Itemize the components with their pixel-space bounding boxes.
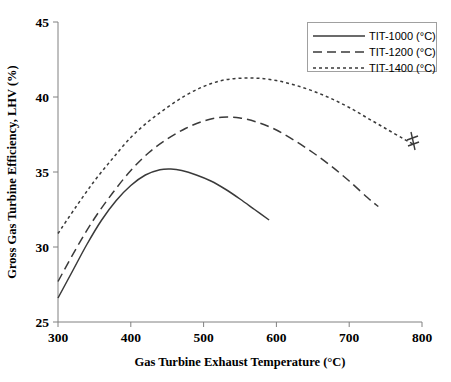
chart-canvas: 2530354045 300400500600700800 Gas Turbin… [0,0,451,382]
series-group [58,78,415,298]
legend-label-1: TIT-1000 (°C) [369,30,436,42]
y-tick-label: 30 [36,240,50,255]
y-tick-label: 45 [36,15,50,30]
chart-figure: 2530354045 300400500600700800 Gas Turbin… [0,0,451,382]
axis-break-mark [407,132,419,150]
x-axis-title: Gas Turbine Exhaust Temperature (°C) [134,355,345,369]
y-tick-label: 35 [36,165,50,180]
x-tick-label: 500 [193,330,214,345]
series-line-3 [58,78,415,234]
y-axis-title: Gross Gas Turbine Efficiency, LHV (%) [5,65,19,278]
x-tick-label: 400 [121,330,142,345]
legend-label-2: TIT-1200 (°C) [369,46,436,58]
x-tick-label: 600 [266,330,287,345]
legend-label-3: TIT-1400 (°C) [369,62,436,74]
x-tick-label: 700 [339,330,360,345]
x-tick-label: 800 [412,330,433,345]
x-axis-ticks: 300400500600700800 [48,322,433,345]
series-line-2 [58,117,378,281]
x-tick-label: 300 [48,330,69,345]
y-tick-label: 25 [36,315,50,330]
y-axis-ticks: 2530354045 [36,15,59,330]
y-tick-label: 40 [36,90,50,105]
chart-legend[interactable]: TIT-1000 (°C)TIT-1200 (°C)TIT-1400 (°C) [308,23,437,75]
